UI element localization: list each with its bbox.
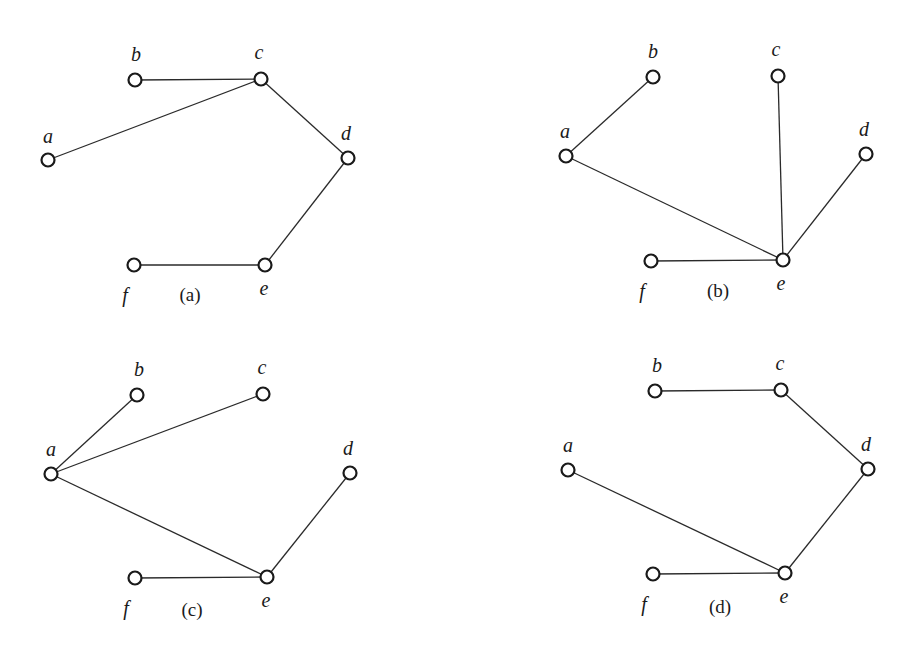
- node-c: [772, 70, 785, 83]
- edge-a-b: [566, 77, 653, 156]
- edge-b-c: [655, 390, 781, 391]
- panel-c: abcdef(c): [45, 356, 357, 621]
- panel-caption: (c): [181, 599, 202, 621]
- edge-a-e: [51, 474, 267, 577]
- node-c: [255, 73, 268, 86]
- node-label-b: b: [652, 354, 662, 376]
- node-label-a: a: [563, 434, 573, 456]
- node-label-d: d: [341, 122, 352, 144]
- node-label-a: a: [46, 438, 56, 460]
- node-d: [342, 152, 355, 165]
- node-f: [129, 572, 142, 585]
- edge-b-c: [135, 79, 261, 80]
- edge-c-d: [261, 79, 348, 158]
- node-label-d: d: [859, 118, 870, 140]
- node-label-c: c: [776, 352, 785, 374]
- edge-c-e: [778, 76, 783, 260]
- node-e: [777, 254, 790, 267]
- edge-c-d: [781, 390, 868, 469]
- node-label-d: d: [861, 433, 872, 455]
- node-c: [775, 384, 788, 397]
- node-f: [645, 255, 658, 268]
- edge-f-e: [651, 260, 783, 261]
- node-b: [647, 71, 660, 84]
- node-label-f: f: [123, 597, 131, 620]
- edge-a-c: [48, 79, 261, 160]
- node-f: [128, 259, 141, 272]
- node-label-e: e: [780, 585, 789, 607]
- panel-caption: (b): [707, 280, 729, 302]
- node-a: [42, 154, 55, 167]
- node-label-c: c: [772, 38, 781, 60]
- node-label-f: f: [639, 280, 647, 303]
- node-label-c: c: [258, 356, 267, 378]
- node-d: [862, 463, 875, 476]
- node-label-a: a: [560, 120, 570, 142]
- panel-caption: (d): [709, 596, 731, 618]
- edge-d-e: [267, 473, 350, 577]
- node-e: [779, 567, 792, 580]
- edge-a-e: [566, 156, 783, 260]
- edge-d-e: [783, 154, 866, 260]
- edge-f-e: [653, 573, 785, 574]
- node-a: [560, 150, 573, 163]
- panel-b: abcdef(b): [560, 38, 873, 303]
- node-label-c: c: [255, 41, 264, 63]
- node-c: [257, 388, 270, 401]
- panel-d: abcdef(d): [562, 352, 875, 618]
- edge-f-e: [135, 577, 267, 578]
- node-b: [649, 385, 662, 398]
- node-a: [562, 464, 575, 477]
- edge-a-c: [51, 394, 263, 474]
- edge-a-b: [51, 395, 137, 474]
- node-label-e: e: [777, 272, 786, 294]
- edge-a-e: [568, 470, 785, 573]
- node-b: [131, 389, 144, 402]
- node-label-b: b: [648, 40, 658, 62]
- node-f: [647, 568, 660, 581]
- node-b: [129, 74, 142, 87]
- node-label-b: b: [131, 43, 141, 65]
- panel-a: abcdef(a): [42, 41, 355, 307]
- node-label-e: e: [260, 277, 269, 299]
- node-e: [259, 259, 272, 272]
- node-label-a: a: [43, 125, 53, 147]
- graph-diagram: abcdef(a) abcdef(b) abcdef(c) abcdef(d): [0, 0, 907, 650]
- node-e: [261, 571, 274, 584]
- panel-caption: (a): [179, 284, 200, 306]
- node-label-d: d: [343, 437, 354, 459]
- node-d: [860, 148, 873, 161]
- node-label-f: f: [641, 593, 649, 616]
- node-label-f: f: [122, 284, 130, 307]
- edge-d-e: [785, 469, 868, 573]
- node-a: [45, 468, 58, 481]
- node-d: [344, 467, 357, 480]
- node-label-b: b: [134, 358, 144, 380]
- edge-d-e: [265, 158, 348, 265]
- node-label-e: e: [262, 589, 271, 611]
